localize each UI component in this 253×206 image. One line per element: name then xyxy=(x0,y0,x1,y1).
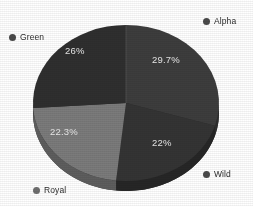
legend-marker-icon xyxy=(203,18,210,25)
pie-slice-green xyxy=(33,25,126,108)
pie-slice-royal xyxy=(33,103,126,181)
legend-label-wild: Wild xyxy=(214,170,231,179)
legend-label-alpha: Alpha xyxy=(214,17,236,26)
legend-marker-icon xyxy=(9,34,16,41)
legend-item-green[interactable]: Green xyxy=(9,33,44,42)
slice-label-wild: 22% xyxy=(152,138,172,148)
legend-label-royal: Royal xyxy=(44,186,66,195)
pie-top-face xyxy=(33,25,219,181)
slice-label-green: 26% xyxy=(65,46,85,56)
legend-marker-icon xyxy=(33,187,40,194)
pie-chart: 29.7% 22% 22.3% 26% Alpha Green Wild Roy… xyxy=(0,0,253,206)
slice-label-alpha: 29.7% xyxy=(152,55,180,65)
slice-label-royal: 22.3% xyxy=(50,127,78,137)
legend-item-wild[interactable]: Wild xyxy=(203,170,231,179)
legend-item-royal[interactable]: Royal xyxy=(33,186,66,195)
legend-item-alpha[interactable]: Alpha xyxy=(203,17,236,26)
legend-marker-icon xyxy=(203,171,210,178)
legend-label-green: Green xyxy=(20,33,44,42)
